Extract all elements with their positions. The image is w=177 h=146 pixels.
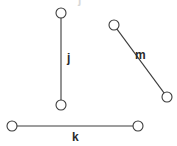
segment-k-endpoint-right (133, 121, 143, 131)
diagram-canvas (0, 0, 177, 146)
clipped-top-glyph: j (78, 0, 81, 5)
segment-j-endpoint-top (56, 8, 66, 18)
line-segment-diagram: j j m k (0, 0, 177, 146)
segment-m-endpoint-lower (162, 92, 172, 102)
segment-k-endpoint-left (7, 121, 17, 131)
segment-j-endpoint-bottom (56, 100, 66, 110)
segment-label-k: k (72, 131, 79, 143)
segment-j (56, 8, 66, 110)
segment-label-j: j (67, 52, 70, 64)
segment-m-endpoint-upper (109, 20, 119, 30)
segment-label-m: m (135, 49, 146, 61)
